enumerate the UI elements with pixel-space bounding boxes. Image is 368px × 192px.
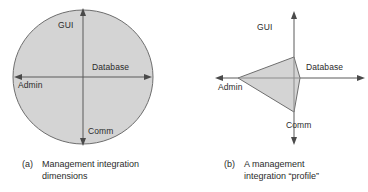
panel-a-caption-line1: Management integration bbox=[42, 159, 139, 169]
panel-b-admin-label: Admin bbox=[218, 82, 243, 92]
panel-a-caption-text: Management integration dimensions bbox=[42, 158, 139, 182]
panel-b-diagram bbox=[184, 0, 368, 150]
panel-a-caption-tag: (a) bbox=[22, 158, 33, 170]
panel-a-caption: (a) Management integration dimensions bbox=[22, 158, 139, 182]
panel-a-management-integration-dimensions: GUI Database Comm Admin (a) Management i… bbox=[0, 0, 184, 192]
panel-a-admin-label: Admin bbox=[18, 80, 43, 90]
panel-b-caption-line2: integration “profile” bbox=[244, 170, 319, 182]
panel-a-comm-label: Comm bbox=[88, 126, 113, 136]
panel-b-caption-tag: (b) bbox=[224, 158, 235, 170]
panel-b-database-label: Database bbox=[306, 62, 343, 72]
panel-a-database-label: Database bbox=[92, 62, 129, 72]
comm-arrow-icon bbox=[291, 137, 297, 145]
database-arrow-icon bbox=[357, 75, 365, 81]
panel-a-gui-label: GUI bbox=[58, 20, 73, 30]
panel-b-management-integration-profile: GUI Database Comm Admin (b) A management… bbox=[184, 0, 368, 192]
panel-b-caption-text: A management integration “profile” bbox=[244, 158, 319, 182]
integration-profile-polygon bbox=[238, 57, 300, 112]
gui-arrow-icon bbox=[291, 11, 297, 19]
panel-b-caption: (b) A management integration “profile” bbox=[224, 158, 319, 182]
admin-arrow-icon bbox=[215, 75, 223, 81]
panel-b-caption-line1: A management bbox=[244, 159, 305, 169]
figure-management-integration: GUI Database Comm Admin (a) Management i… bbox=[0, 0, 368, 192]
panel-b-gui-label: GUI bbox=[257, 22, 272, 32]
panel-a-caption-line2: dimensions bbox=[42, 170, 139, 182]
panel-b-comm-label: Comm bbox=[286, 120, 311, 130]
